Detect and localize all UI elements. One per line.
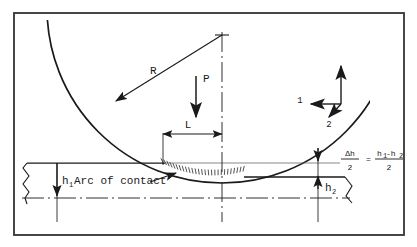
formula-lhs-numerator: Δh [345,149,355,158]
exit-thickness-subscript: 2 [332,188,336,196]
figure-root: R P L h 1 Arc of contact h 2 Δh 2 = h 1 … [0,0,417,247]
formula-rhs-minus-h2: -h [386,149,396,158]
entry-thickness-subscript: 1 [69,181,73,189]
formula-rhs-denominator: 2 [387,163,392,172]
radius-label: R [150,65,157,77]
axis-2-label: 2 [326,120,331,130]
formula-rhs-h1: h [377,149,382,158]
formula-lhs-denominator: 2 [348,163,353,172]
contact-length-label: L [185,119,192,131]
rolling-diagram-svg: R P L h 1 Arc of contact h 2 Δh 2 = h 1 … [0,0,417,247]
roll-force-label: P [203,73,210,85]
axis-1-label: 1 [297,96,302,106]
entry-thickness-label: h [62,175,69,187]
exit-thickness-label: h [325,182,332,194]
formula-equals: = [366,155,371,164]
